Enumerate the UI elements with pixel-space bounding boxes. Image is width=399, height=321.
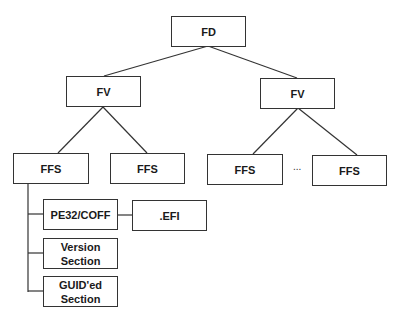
pe32-coff-node: PE32/COFF xyxy=(43,199,118,230)
ffs-label: FFS xyxy=(41,162,62,176)
ffs-node-4: FFS xyxy=(312,155,387,186)
ffs-node-1: FFS xyxy=(13,153,89,184)
ffs-label: FFS xyxy=(235,163,256,177)
guided-section-label: GUID'ed Section xyxy=(52,278,109,306)
ffs-node-2: FFS xyxy=(110,153,185,184)
fd-label: FD xyxy=(201,25,216,39)
version-section-node: Version Section xyxy=(43,238,118,269)
version-section-label: Version Section xyxy=(54,240,107,268)
efi-node: .EFI xyxy=(132,200,207,231)
efi-label: .EFI xyxy=(159,209,179,223)
ffs-node-3: FFS xyxy=(207,154,283,185)
fv-node-right: FV xyxy=(260,78,335,109)
fv-label: FV xyxy=(290,87,304,101)
ellipsis: ... xyxy=(293,161,301,172)
pe32-coff-label: PE32/COFF xyxy=(51,208,111,222)
guided-section-node: GUID'ed Section xyxy=(43,276,118,307)
ffs-label: FFS xyxy=(137,162,158,176)
fd-node: FD xyxy=(171,16,246,47)
ffs-label: FFS xyxy=(339,164,360,178)
fv-label: FV xyxy=(96,85,110,99)
fv-node-left: FV xyxy=(66,76,141,107)
